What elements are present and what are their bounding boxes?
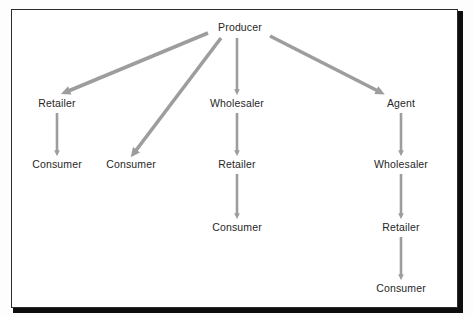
node-consumer_4: Consumer [376,283,426,294]
node-wholesaler_1: Wholesaler [210,98,264,109]
node-retailer_2: Retailer [218,159,255,170]
node-consumer_2: Consumer [106,159,156,170]
node-producer: Producer [218,22,262,33]
frame-shadow-right [458,11,463,311]
node-retailer_1: Retailer [38,98,75,109]
node-wholesaler_2: Wholesaler [374,159,428,170]
node-retailer_3: Retailer [382,222,419,233]
node-consumer_1: Consumer [32,159,82,170]
frame-shadow-bottom [13,308,463,313]
diagram-canvas: ProducerRetailerConsumerConsumerWholesal… [0,0,473,317]
node-agent: Agent [387,98,415,109]
node-consumer_3: Consumer [212,222,262,233]
